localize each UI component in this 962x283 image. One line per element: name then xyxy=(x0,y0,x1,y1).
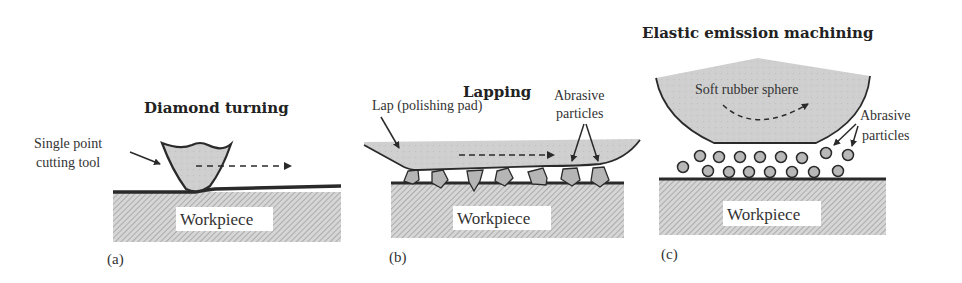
lap-label: Lap (polishing pad) xyxy=(372,98,483,114)
figure-canvas: Diamond turning Workpiece Single point c… xyxy=(0,0,962,283)
panel-c-label: (c) xyxy=(661,246,678,263)
panel-b-lapping: Lapping Workpiece Lap (polishing pad) Ab… xyxy=(364,83,640,266)
abrasive-label-line1: Abrasive xyxy=(554,88,605,103)
abrasive-particle-icon xyxy=(404,170,419,184)
sphere-label: Soft rubber sphere xyxy=(695,82,798,97)
panel-b-label: (b) xyxy=(389,249,407,266)
workpiece-surface-line xyxy=(113,186,341,192)
abrasive-particles xyxy=(678,148,854,178)
panel-c-eem: Elastic emission machining Workpiece Sof… xyxy=(642,24,911,263)
panel-c-title: Elastic emission machining xyxy=(642,24,874,42)
abrasive-particle-icon xyxy=(528,168,547,185)
cutting-tool-icon xyxy=(162,143,231,191)
abrasive-label-line2: particles xyxy=(862,128,909,143)
tool-label-line1: Single point xyxy=(34,136,102,151)
panel-a-label: (a) xyxy=(107,251,124,268)
tool-pointer-arrow-icon xyxy=(130,152,160,164)
workpiece-label: Workpiece xyxy=(457,209,530,228)
abrasive-pointer-arrow-icon xyxy=(852,126,858,146)
tool-label-line2: cutting tool xyxy=(36,155,100,170)
workpiece-label: Workpiece xyxy=(180,210,253,229)
workpiece-label: Workpiece xyxy=(727,205,800,224)
abrasive-label-line1: Abrasive xyxy=(860,108,911,123)
abrasive-label-line2: particles xyxy=(556,106,603,121)
panel-a-diamond-turning: Diamond turning Workpiece Single point c… xyxy=(34,99,341,268)
panel-a-title: Diamond turning xyxy=(144,99,289,117)
